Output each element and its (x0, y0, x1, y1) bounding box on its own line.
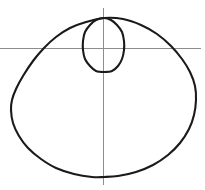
limacon-plot (0, 0, 205, 190)
figure-container (0, 0, 205, 190)
plot-background (0, 0, 205, 190)
